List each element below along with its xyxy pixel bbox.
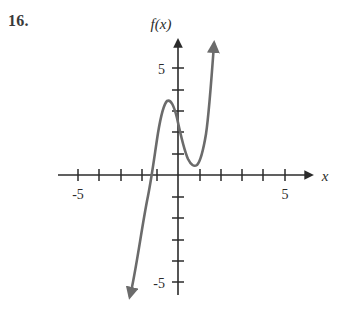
graph-canvas: f(x) x 5 -5 -5 5 [0, 0, 338, 310]
y-axis-label: f(x) [151, 16, 172, 33]
x-axis-label: x [321, 168, 329, 184]
figure-container: 16. [0, 0, 338, 310]
x-tick-label-negative-5: -5 [72, 187, 84, 202]
y-tick-label-negative-5: -5 [153, 276, 165, 291]
y-tick-label-positive-5: 5 [158, 62, 165, 77]
x-tick-label-positive-5: 5 [282, 187, 289, 202]
